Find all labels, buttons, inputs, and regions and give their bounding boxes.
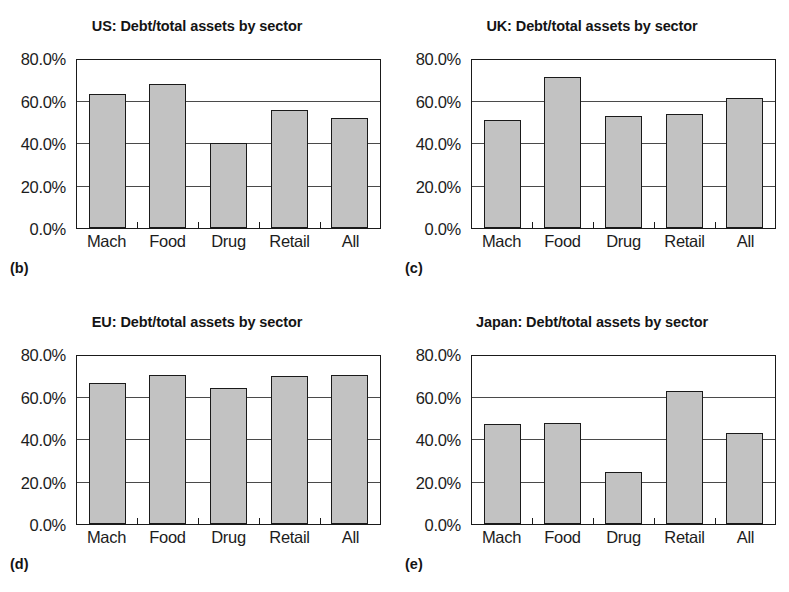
bar-slot: [198, 356, 259, 524]
x-tick: [532, 222, 533, 229]
chart-title: EU: Debt/total assets by sector: [0, 314, 394, 330]
x-tick-label: Mach: [76, 232, 137, 251]
x-tick: [593, 222, 594, 229]
x-tick: [259, 518, 260, 525]
x-tick-label: Mach: [471, 232, 532, 251]
chart-panel-eu: EU: Debt/total assets by sector 0.0%20.0…: [0, 296, 394, 592]
x-tick: [137, 222, 138, 229]
panel-label: (e): [405, 556, 423, 572]
x-tick: [715, 518, 716, 525]
bar-slot: [533, 60, 594, 228]
bar-slot: [593, 356, 654, 524]
y-tick-label: 20.0%: [416, 473, 461, 492]
y-tick-label: 60.0%: [21, 388, 66, 407]
x-tick: [654, 518, 655, 525]
bar-slot: [472, 60, 533, 228]
x-tick: [137, 518, 138, 525]
y-tick-label: 40.0%: [416, 431, 461, 450]
y-axis-labels: 0.0%20.0%40.0%60.0%80.0%: [0, 48, 72, 220]
y-axis-labels: 0.0%20.0%40.0%60.0%80.0%: [395, 48, 467, 220]
chart-title: UK: Debt/total assets by sector: [395, 18, 789, 34]
x-tick-label: Food: [137, 528, 198, 547]
bar-slot: [198, 60, 259, 228]
x-axis-labels: MachFoodDrugRetailAll: [471, 232, 776, 251]
chart-panel-uk: UK: Debt/total assets by sector 0.0%20.0…: [395, 0, 789, 296]
bar-all: [726, 433, 763, 524]
y-tick-label: 80.0%: [21, 50, 66, 69]
y-tick-label: 20.0%: [21, 473, 66, 492]
bar-food: [544, 77, 581, 228]
bar-series: [472, 356, 775, 524]
x-tick-label: All: [715, 528, 776, 547]
x-tick: [320, 222, 321, 229]
bar-slot: [77, 60, 138, 228]
y-tick-label: 60.0%: [416, 92, 461, 111]
x-tick-label: Drug: [198, 232, 259, 251]
bar-all: [331, 375, 368, 524]
x-tick-label: Mach: [76, 528, 137, 547]
y-tick-label: 0.0%: [425, 516, 461, 535]
x-tick: [715, 222, 716, 229]
plot-area: 0.0%20.0%40.0%60.0%80.0% MachFoodDrugRet…: [0, 344, 394, 544]
bar-series: [77, 356, 380, 524]
bar-retail: [271, 376, 308, 524]
y-axis-labels: 0.0%20.0%40.0%60.0%80.0%: [0, 344, 72, 516]
bar-all: [726, 98, 763, 228]
plot-frame: [76, 355, 381, 525]
panel-label: (d): [10, 556, 29, 572]
x-tick: [593, 518, 594, 525]
x-tick: [532, 518, 533, 525]
y-tick-label: 80.0%: [416, 346, 461, 365]
chart-title: US: Debt/total assets by sector: [0, 18, 394, 34]
x-tick-label: Retail: [259, 232, 320, 251]
plot-area: 0.0%20.0%40.0%60.0%80.0% MachFoodDrugRet…: [395, 48, 789, 248]
bar-slot: [138, 356, 199, 524]
bar-slot: [138, 60, 199, 228]
x-axis-labels: MachFoodDrugRetailAll: [76, 232, 381, 251]
bar-all: [331, 118, 368, 229]
y-tick-label: 60.0%: [416, 388, 461, 407]
bar-slot: [319, 356, 380, 524]
x-tick-label: Food: [137, 232, 198, 251]
bar-slot: [472, 356, 533, 524]
x-tick: [198, 222, 199, 229]
x-tick-label: Mach: [471, 528, 532, 547]
bar-mach: [89, 94, 126, 228]
x-tick-label: All: [320, 232, 381, 251]
bar-slot: [533, 356, 594, 524]
y-tick-label: 40.0%: [21, 431, 66, 450]
bar-retail: [666, 114, 703, 228]
x-tick-label: All: [320, 528, 381, 547]
bar-series: [77, 60, 380, 228]
y-tick-label: 80.0%: [21, 346, 66, 365]
x-tick: [320, 518, 321, 525]
bar-slot: [259, 356, 320, 524]
x-tick-label: Drug: [593, 232, 654, 251]
y-tick-label: 0.0%: [30, 516, 66, 535]
panel-label: (c): [405, 260, 423, 276]
y-axis-labels: 0.0%20.0%40.0%60.0%80.0%: [395, 344, 467, 516]
x-tick-label: Food: [532, 528, 593, 547]
y-tick-label: 0.0%: [30, 220, 66, 239]
bar-slot: [77, 356, 138, 524]
bar-drug: [605, 472, 642, 524]
bar-food: [149, 84, 186, 229]
chart-panel-us: US: Debt/total assets by sector 0.0%20.0…: [0, 0, 394, 296]
bar-mach: [484, 424, 521, 524]
bar-slot: [654, 356, 715, 524]
x-tick-label: Drug: [593, 528, 654, 547]
bar-slot: [593, 60, 654, 228]
y-tick-label: 0.0%: [425, 220, 461, 239]
y-tick-label: 40.0%: [21, 135, 66, 154]
y-tick-label: 20.0%: [416, 177, 461, 196]
x-tick: [654, 222, 655, 229]
bar-series: [472, 60, 775, 228]
bar-slot: [319, 60, 380, 228]
bar-drug: [210, 388, 247, 524]
x-tick-label: Retail: [259, 528, 320, 547]
x-tick-label: Retail: [654, 528, 715, 547]
bar-slot: [654, 60, 715, 228]
x-axis-labels: MachFoodDrugRetailAll: [76, 528, 381, 547]
x-tick-label: All: [715, 232, 776, 251]
chart-panel-japan: Japan: Debt/total assets by sector 0.0%2…: [395, 296, 789, 592]
